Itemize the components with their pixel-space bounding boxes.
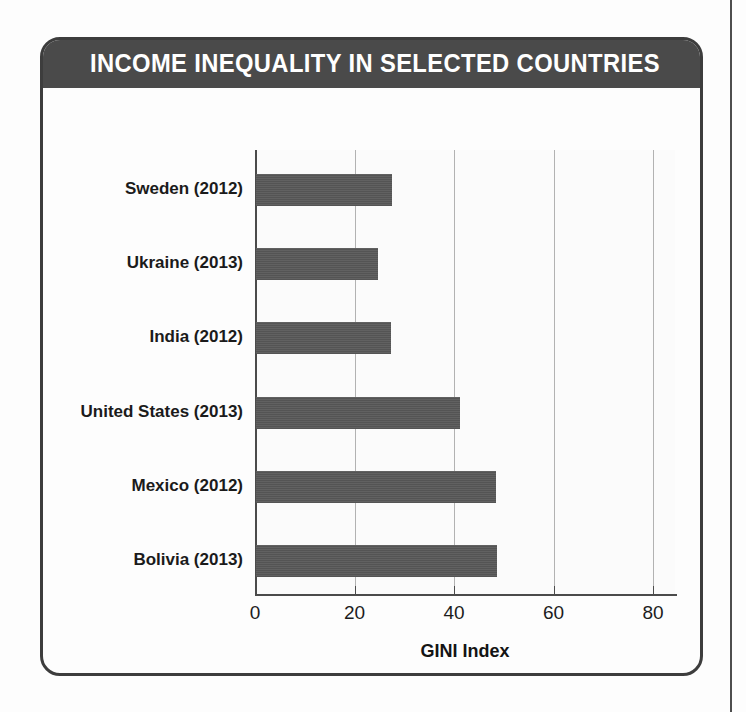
tick-40 <box>454 586 455 596</box>
tick-label-40: 40 <box>443 602 464 624</box>
category-label-united-states-2013: United States (2013) <box>81 402 244 422</box>
gridline-20 <box>355 150 356 595</box>
tick-20 <box>355 586 356 596</box>
tick-80 <box>653 586 654 596</box>
category-label-india-2012: India (2012) <box>149 327 243 347</box>
bar-mexico-2012 <box>256 471 496 503</box>
gridline-40 <box>454 150 455 595</box>
x-axis-title: GINI Index <box>255 641 675 662</box>
bar-sweden-2012 <box>256 174 392 206</box>
bar-bolivia-2013 <box>256 545 497 577</box>
gridline-60 <box>554 150 555 595</box>
tick-label-60: 60 <box>543 602 564 624</box>
chart-card: INCOME INEQUALITY IN SELECTED COUNTRIES … <box>40 37 703 676</box>
category-label-sweden-2012: Sweden (2012) <box>125 179 243 199</box>
tick-label-0: 0 <box>250 602 261 624</box>
category-label-ukraine-2013: Ukraine (2013) <box>127 253 243 273</box>
chart-body: Sweden (2012)Ukraine (2013)India (2012)U… <box>43 89 700 676</box>
chart-title-bar: INCOME INEQUALITY IN SELECTED COUNTRIES <box>42 39 703 88</box>
x-axis-line <box>255 594 677 596</box>
y-axis-line <box>255 150 257 595</box>
gridline-80 <box>653 150 654 595</box>
plot-background <box>255 150 675 595</box>
tick-60 <box>554 586 555 596</box>
bar-united-states-2013 <box>256 397 460 429</box>
category-axis-labels: Sweden (2012)Ukraine (2013)India (2012)U… <box>43 150 243 595</box>
tick-label-80: 80 <box>642 602 663 624</box>
category-label-mexico-2012: Mexico (2012) <box>132 476 244 496</box>
tick-0 <box>255 586 256 596</box>
tick-label-20: 20 <box>344 602 365 624</box>
page-title: INCOME INEQUALITY IN SELECTED COUNTRIES <box>90 49 660 78</box>
bar-india-2012 <box>256 322 391 354</box>
page-column-rule <box>730 0 732 712</box>
bar-ukraine-2013 <box>256 248 378 280</box>
category-label-bolivia-2013: Bolivia (2013) <box>133 550 243 570</box>
plot-area: 020406080 <box>255 150 675 595</box>
